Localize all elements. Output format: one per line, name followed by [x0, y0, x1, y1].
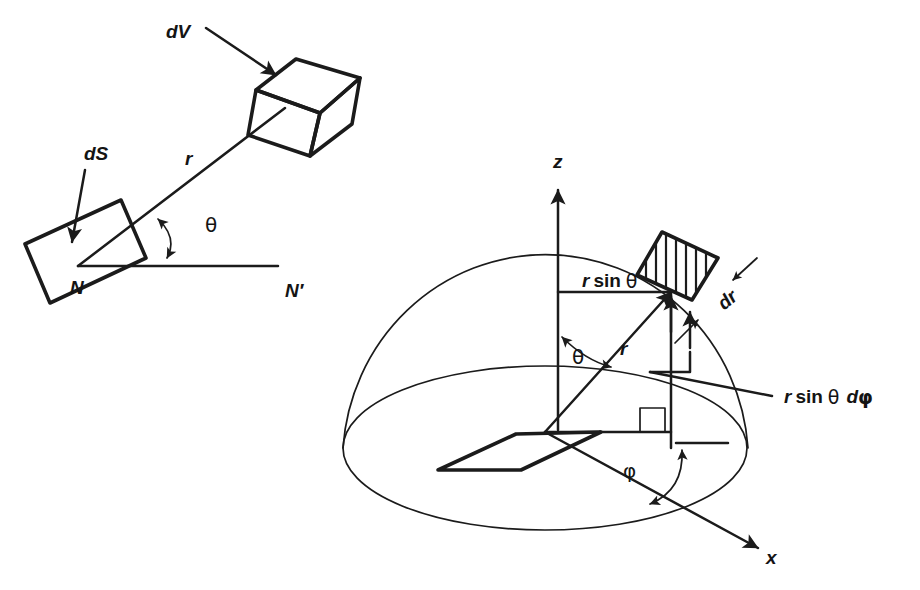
label-phi: φ	[623, 459, 636, 483]
ray-r-line	[78, 108, 285, 266]
hemisphere-base-ellipse	[343, 366, 747, 530]
label-ds: dS	[84, 143, 109, 164]
label-rst-func: sin	[593, 270, 620, 291]
label-dr: dr	[713, 285, 742, 314]
ground-patch-shape	[438, 432, 601, 470]
dv-cube	[248, 59, 360, 156]
label-rstd-phi: φ	[858, 386, 873, 408]
label-n-prime: N′	[285, 280, 305, 301]
theta-angle-arc-right	[562, 337, 611, 367]
figure-root: dV dS r θ N N′	[0, 0, 920, 590]
ds-leader-line	[72, 170, 85, 242]
shaded-ground-parallelogram	[438, 432, 601, 470]
label-rst-var: r	[582, 270, 591, 291]
label-n: N	[70, 277, 85, 298]
cube-top-face	[256, 59, 360, 113]
dr-arrow-lower	[675, 320, 698, 343]
label-rstd-var: r	[784, 386, 793, 407]
hemisphere-dome-arc	[343, 255, 748, 448]
right-angle-square	[640, 408, 665, 432]
label-r-sin-theta: rsinθ	[582, 270, 637, 292]
diagram-canvas: dV dS r θ N N′	[0, 0, 920, 590]
label-theta-left: θ	[205, 213, 217, 237]
rsintheta-dphi-leader	[650, 372, 772, 396]
label-dv: dV	[166, 21, 192, 42]
label-rst-angle: θ	[626, 270, 638, 292]
dr-arrow-upper	[733, 258, 757, 280]
label-x-axis: x	[765, 547, 778, 568]
label-theta-right: θ	[572, 345, 584, 369]
cube-front-face	[248, 90, 320, 156]
x-axis-line	[545, 432, 758, 548]
label-r-sin-theta-dphi: rsinθdφ	[784, 386, 873, 408]
ds-surface-parallelogram	[25, 200, 146, 303]
label-rstd-angle: θ	[828, 386, 840, 408]
label-z-axis: z	[552, 151, 563, 172]
hatched-volume-element	[637, 225, 718, 310]
label-rstd-differential: d	[846, 386, 858, 407]
spherical-coordinates-diagram: z x r θ φ dr rsinθ rsinθdφ	[343, 151, 873, 568]
cube-side-face	[310, 78, 360, 156]
label-rstd-func: sin	[795, 386, 822, 407]
label-r-left: r	[185, 148, 194, 169]
theta-angle-arc	[158, 219, 171, 258]
solid-angle-diagram: dV dS r θ N N′	[25, 21, 360, 303]
dv-leader-line	[206, 28, 276, 75]
phi-angle-arc	[650, 450, 682, 504]
r-vector-line	[545, 292, 671, 432]
